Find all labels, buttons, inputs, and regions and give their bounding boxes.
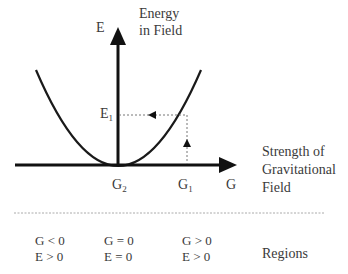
g-axis-symbol: G [226,177,236,192]
g-axis-arrowhead-icon [219,157,237,173]
region-negative-g: G < 0 [35,233,65,249]
g2-base: G [112,177,122,192]
e-axis-symbol: E [96,20,105,35]
e-axis-title-line2: in Field [139,22,182,39]
region-zero: G = 0 E = 0 [104,233,134,265]
g-axis-title-line1: Strength of [262,143,336,161]
up-arrow-icon [183,139,191,147]
region-positive-g: G > 0 [182,233,212,249]
e-axis-title-line1: Energy [139,5,182,22]
e1-base: E [100,106,109,121]
region-zero-g: G = 0 [104,233,134,249]
region-negative-e: E > 0 [35,249,65,265]
g2-label: G2 [112,177,127,194]
e1-label: E1 [100,106,113,123]
g1-sub: 1 [188,184,193,194]
g2-sub: 2 [122,184,127,194]
g1-label: G1 [178,177,193,194]
g-axis-title: Strength of Gravitational Field [262,143,336,197]
region-positive-e: E > 0 [182,249,212,265]
e-axis-title: Energy in Field [139,5,182,39]
region-negative: G < 0 E > 0 [35,233,65,265]
e1-sub: 1 [109,113,114,123]
regions-label: Regions [262,246,308,261]
g1-base: G [178,177,188,192]
g-axis-title-line3: Field [262,179,336,197]
region-positive: G > 0 E > 0 [182,233,212,265]
e-axis-arrowhead-icon [110,27,126,45]
g-axis-title-line2: Gravitational [262,161,336,179]
region-zero-e: E = 0 [104,249,134,265]
left-arrow-icon [148,111,156,119]
